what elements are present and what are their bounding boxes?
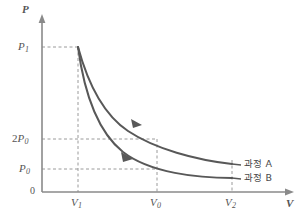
y-axis-label: P bbox=[22, 4, 29, 15]
x-tick-v2-base: V bbox=[225, 196, 232, 208]
guide-lines bbox=[42, 47, 232, 192]
curve-a-direction-arrow-icon bbox=[131, 119, 142, 128]
y-tick-p1-subscript: 1 bbox=[25, 45, 29, 54]
y-tick-p0-subscript: 0 bbox=[26, 167, 30, 176]
pv-diagram-canvas bbox=[0, 0, 305, 222]
y-tick-label-2p0: 2P0 bbox=[12, 133, 28, 146]
y-tick-p0-base: P bbox=[19, 162, 26, 174]
legend-leader-b bbox=[232, 178, 241, 179]
legend-label-process-a: 과정 A bbox=[244, 159, 272, 169]
legend-label-process-b: 과정 B bbox=[244, 173, 272, 183]
x-tick-v0-subscript: 0 bbox=[157, 201, 161, 210]
x-tick-v0-base: V bbox=[150, 196, 157, 208]
x-tick-v1-subscript: 1 bbox=[78, 201, 82, 210]
pv-diagram-figure: P V 0 P1 2P0 P0 V1 V0 V2 과정 A 과정 B bbox=[0, 0, 305, 222]
y-axis-arrow-icon bbox=[39, 14, 46, 23]
y-tick-label-p1: P1 bbox=[18, 41, 29, 54]
x-tick-v1-base: V bbox=[71, 196, 78, 208]
legend-leader-a bbox=[232, 164, 241, 165]
curve-b-path bbox=[78, 47, 232, 178]
x-axis-arrow-icon bbox=[285, 189, 294, 196]
curve-a-path bbox=[78, 47, 232, 164]
x-tick-label-v1: V1 bbox=[71, 197, 82, 210]
x-axis-label: V bbox=[286, 198, 293, 209]
y-tick-label-p0: P0 bbox=[19, 163, 30, 176]
x-tick-label-v2: V2 bbox=[225, 197, 236, 210]
x-tick-label-v0: V0 bbox=[150, 197, 161, 210]
y-tick-2p0-subscript: 0 bbox=[24, 137, 28, 146]
y-tick-p1-base: P bbox=[18, 40, 25, 52]
origin-label: 0 bbox=[30, 186, 35, 196]
x-tick-v2-subscript: 2 bbox=[232, 201, 236, 210]
